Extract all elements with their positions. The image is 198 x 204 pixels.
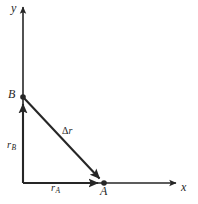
vector-delta-r-label-base: r bbox=[68, 125, 72, 136]
point-B-marker bbox=[20, 94, 26, 100]
x-axis-label: x bbox=[181, 181, 186, 193]
point-A-label: A bbox=[100, 185, 107, 197]
vector-rA-label-subscript: A bbox=[55, 186, 60, 195]
diagram-canvas bbox=[0, 0, 198, 204]
vector-rB-label-subscript: B bbox=[11, 143, 16, 152]
vector-diagram-figure: y x B A rB rA Δr bbox=[0, 0, 198, 204]
vector-rB-label: rB bbox=[7, 140, 16, 152]
point-B-label: B bbox=[8, 88, 15, 100]
vector-rA-label: rA bbox=[51, 183, 60, 195]
vector-delta-r-label: Δr bbox=[62, 126, 72, 136]
y-axis-label: y bbox=[11, 2, 16, 14]
vector-delta-r bbox=[23, 97, 100, 179]
